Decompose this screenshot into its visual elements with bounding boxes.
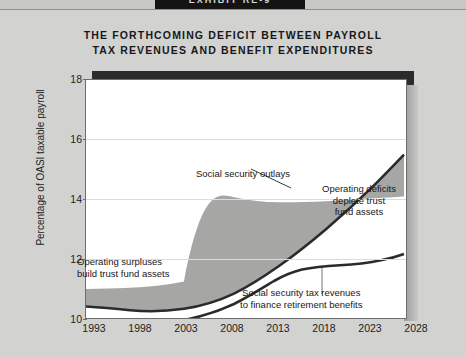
annotation-outlays-line-1: Social security outlays (196, 168, 290, 180)
annotation-operating-surpluses: Operating surpluses build trust fund ass… (77, 256, 169, 279)
annotation-deficits-line-1: Operating deficits (322, 183, 396, 195)
y-axis-title: Percentage of OASI taxable payroll (35, 58, 46, 278)
annotation-surplus-line-2: build trust fund assets (77, 268, 169, 280)
exhibit-banner: EXHIBIT RE-9 (155, 0, 305, 9)
annotation-social-security-outlays: Social security outlays (196, 168, 290, 180)
y-axis-ticks: 18 16 14 12 10 (52, 79, 82, 319)
gridline-16 (86, 139, 406, 140)
annotation-operating-deficits: Operating deficits deplete trust fund as… (322, 183, 396, 218)
annotation-revenues-line-2: to finance retirement benefits (240, 299, 363, 311)
x-tick-2003: 2003 (164, 322, 208, 334)
x-tick-2023: 2023 (348, 322, 392, 334)
x-axis-ticks: 1993 1998 2003 2008 2013 2018 2023 2028 (85, 322, 407, 342)
y-tick-18: 18 (56, 73, 82, 85)
annotation-revenues-line-1: Social security tax revenues (240, 287, 363, 299)
exhibit-card: THE FORTHCOMING DEFICIT BETWEEN PAYROLL … (0, 9, 466, 357)
page-title-line-2: TAX REVENUES AND BENEFIT EXPENDITURES (0, 43, 466, 58)
x-tick-2018: 2018 (302, 322, 346, 334)
annotation-deficits-line-3: fund assets (322, 206, 396, 218)
page-title: THE FORTHCOMING DEFICIT BETWEEN PAYROLL … (0, 28, 466, 58)
y-tick-16: 16 (56, 133, 82, 145)
page-title-line-1: THE FORTHCOMING DEFICIT BETWEEN PAYROLL (0, 28, 466, 43)
x-tick-1998: 1998 (118, 322, 162, 334)
annotation-tax-revenues: Social security tax revenues to finance … (240, 287, 363, 310)
x-tick-2013: 2013 (256, 322, 300, 334)
x-tick-2028: 2028 (394, 322, 438, 334)
annotation-surplus-line-1: Operating surpluses (77, 256, 169, 268)
x-tick-2008: 2008 (210, 322, 254, 334)
x-tick-1993: 1993 (72, 322, 116, 334)
annotation-deficits-line-2: deplete trust (322, 195, 396, 207)
y-tick-mark-10 (83, 319, 87, 320)
y-tick-14: 14 (56, 193, 82, 205)
